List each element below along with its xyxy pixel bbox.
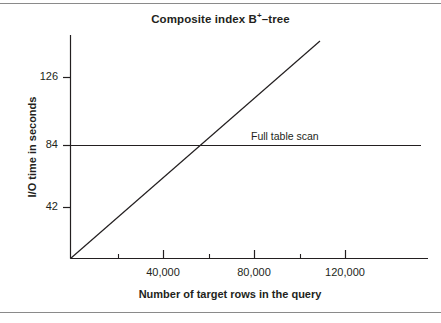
x-tick-label-40000: 40,000 xyxy=(128,266,198,278)
figure-container: Composite index B+–tree I/O time in seco… xyxy=(0,0,441,323)
x-axis-title: Number of target rows in the query xyxy=(40,288,420,300)
y-tick-label-84: 84 xyxy=(18,138,58,150)
y-tick-label-126: 126 xyxy=(18,70,58,82)
y-tick-label-42: 42 xyxy=(18,200,58,212)
x-tick-label-120000: 120,000 xyxy=(310,266,380,278)
annotation-full-table-scan: Full table scan xyxy=(251,130,319,142)
x-tick-label-80000: 80,000 xyxy=(219,266,289,278)
series-composite-index-line xyxy=(71,41,321,259)
